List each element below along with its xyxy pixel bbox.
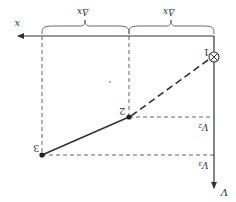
delta-x-label-left: Δx: [77, 7, 90, 17]
v2-label: V₂: [198, 122, 208, 132]
delta-x-label-right: Δx: [163, 7, 176, 17]
segment-2-3: [42, 117, 129, 155]
dot-icon: [126, 114, 131, 119]
point-1-label: 1: [203, 47, 209, 58]
x-axis-label: x: [14, 19, 20, 30]
v-axis-label: V: [219, 187, 228, 198]
point-3-label: 3: [33, 143, 39, 154]
stray-mark: [109, 81, 111, 83]
v3-label: V₃: [198, 160, 208, 170]
point-3: 3: [33, 143, 45, 158]
brace-right: [129, 20, 214, 34]
point-2: 2: [119, 106, 132, 120]
segment-1-2: [131, 60, 208, 116]
brace-left: [42, 20, 129, 34]
point-1: 1: [203, 47, 219, 62]
volume-vs-position-diagram: x V Δx Δx V₂ V₃ 1 2 3: [0, 0, 236, 202]
point-2-label: 2: [119, 106, 125, 117]
